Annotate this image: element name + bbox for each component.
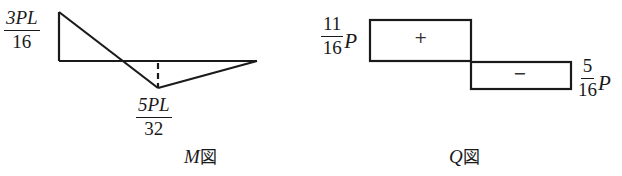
moment-diagram-caption: M図 <box>184 143 217 168</box>
shear-diagram-shape <box>370 20 571 89</box>
shear-diagram-caption: Q図 <box>449 143 480 168</box>
moment-min-label: 5PL 32 <box>136 95 172 139</box>
shear-positive-denominator: 16 <box>323 37 342 58</box>
moment-caption-suffix: 図 <box>200 147 217 167</box>
shear-positive-label: 11 16 P <box>321 14 357 58</box>
shear-negative-denominator: 16 <box>578 79 597 100</box>
moment-diagram-shape <box>59 12 257 88</box>
moment-max-numerator: 3PL <box>4 8 40 31</box>
shear-positive-variable: P <box>344 29 357 54</box>
moment-diagonal <box>59 12 158 88</box>
shear-positive-sign: + <box>414 28 427 47</box>
moment-max-label: 3PL 16 <box>4 8 40 52</box>
moment-min-denominator: 32 <box>144 118 163 139</box>
shear-positive-numerator: 11 <box>321 14 343 37</box>
moment-max-denominator: 16 <box>12 31 31 52</box>
shear-negative-variable: P <box>598 71 611 96</box>
shear-negative-fraction: 5 16 <box>578 56 597 100</box>
diagram-canvas <box>0 0 622 176</box>
shear-negative-sign: − <box>513 64 526 83</box>
shear-positive-fraction: 11 16 <box>321 14 343 58</box>
moment-right-slope <box>158 61 257 88</box>
shear-caption-symbol: Q <box>449 146 463 167</box>
shear-caption-suffix: 図 <box>463 147 480 167</box>
moment-caption-symbol: M <box>184 146 200 167</box>
shear-negative-numerator: 5 <box>581 56 595 79</box>
moment-min-numerator: 5PL <box>136 95 172 118</box>
shear-negative-label: 5 16 P <box>578 56 611 100</box>
